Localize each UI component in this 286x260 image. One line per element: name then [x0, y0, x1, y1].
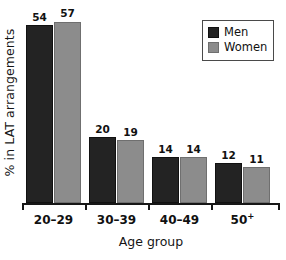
y-axis-label: % in LAT arrangements [0, 0, 20, 205]
x-tick-label-50-plus-base: 50 [231, 213, 248, 227]
x-axis-line [22, 203, 280, 205]
bar-value-women: 57 [60, 8, 75, 19]
x-axis-label: Age group [22, 234, 280, 249]
x-tick-label-20-29: 20–29 [22, 213, 85, 227]
legend-label-men: Men [224, 27, 248, 39]
bar-group-20-29: 54 57 20–29 [22, 8, 85, 203]
bar-wrap-men: 14 [152, 8, 179, 203]
axis-tick [278, 204, 280, 210]
bar-value-women: 19 [123, 127, 138, 138]
legend: Men Women [202, 20, 274, 61]
bar-men[interactable] [215, 163, 242, 203]
bar-group-bars: 54 57 [22, 8, 85, 203]
bar-value-men: 20 [95, 124, 110, 135]
bar-wrap-women: 57 [54, 8, 81, 203]
bar-wrap-men: 54 [26, 8, 53, 203]
bar-men[interactable] [89, 137, 116, 203]
bar-value-women: 14 [186, 144, 201, 155]
axis-tick [211, 204, 213, 210]
bar-value-men: 14 [158, 144, 173, 155]
y-axis-label-text: % in LAT arrangements [3, 29, 18, 177]
axis-tick [85, 204, 87, 210]
axis-tick [148, 204, 150, 210]
bar-value-women: 11 [249, 154, 264, 165]
x-tick-label-50-plus-sup: + [247, 211, 254, 221]
x-tick-label-30-39: 30–39 [85, 213, 148, 227]
bar-group-30-39: 20 19 30–39 [85, 8, 148, 203]
bar-women[interactable] [117, 140, 144, 203]
bar-women[interactable] [243, 167, 270, 203]
legend-swatch-men-icon [208, 27, 219, 38]
x-tick-label-40-49: 40–49 [148, 213, 211, 227]
bar-men[interactable] [152, 157, 179, 203]
bar-wrap-women: 19 [117, 8, 144, 203]
legend-swatch-women-icon [208, 42, 219, 53]
bar-chart: % in LAT arrangements 54 57 20–29 [0, 0, 286, 260]
bar-men[interactable] [26, 25, 53, 203]
x-tick-label-50-plus: 50+ [211, 213, 274, 227]
legend-item-men[interactable]: Men [208, 25, 268, 40]
bar-women[interactable] [180, 157, 207, 203]
bar-women[interactable] [54, 22, 81, 204]
bar-group-bars: 20 19 [85, 8, 148, 203]
bar-value-men: 12 [221, 150, 236, 161]
axis-tick [22, 204, 24, 210]
legend-item-women[interactable]: Women [208, 40, 268, 55]
bar-wrap-men: 20 [89, 8, 116, 203]
legend-label-women: Women [224, 42, 267, 54]
bar-value-men: 54 [32, 12, 47, 23]
